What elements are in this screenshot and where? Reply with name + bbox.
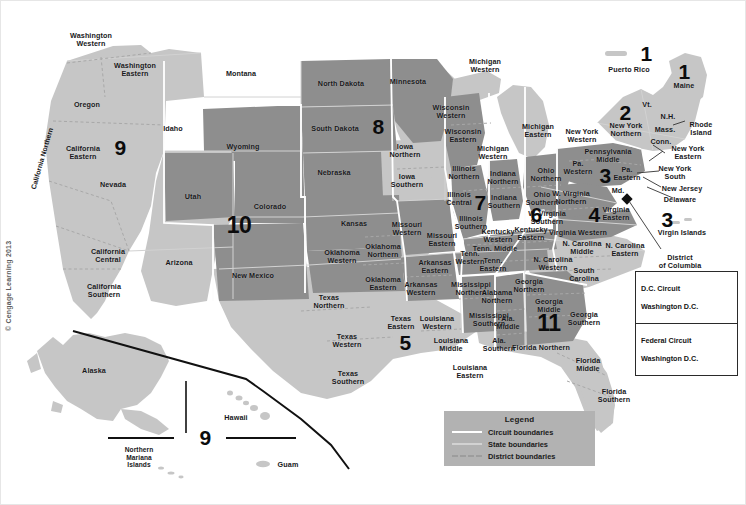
legend: Legend Circuit boundaries State boundari… [444,411,595,466]
dc-circuit-box: D.C. Circuit Washington D.C. [636,272,737,323]
legend-label-circuit: Circuit boundaries [488,428,553,437]
federal-circuit-box: Federal Circuit Washington D.C. [636,323,737,375]
guam-scale-bar [226,437,296,439]
circuit-boundary-swatch [452,431,482,433]
legend-label-state: State boundaries [488,440,548,449]
special-circuits-box: D.C. Circuit Washington D.C. Federal Cir… [635,271,738,376]
legend-label-district: District boundaries [488,452,555,461]
federal-circuit-name: Federal Circuit [641,336,733,345]
dc-circuit-name: D.C. Circuit [641,284,733,293]
mariana-scale-bar [108,437,174,439]
district-boundary-swatch [452,455,482,457]
legend-title: Legend [452,415,587,424]
legend-row-circuit: Circuit boundaries [452,427,587,437]
legend-row-state: State boundaries [452,439,587,449]
federal-circuit-location: Washington D.C. [641,354,733,363]
dc-circuit-location: Washington D.C. [641,302,733,311]
circuit-map: .lightfill{fill:#c6c6c6;} .darkfill{fill… [0,0,746,505]
copyright-notice: © Cengage Learning 2013 [5,241,12,331]
legend-row-district: District boundaries [452,451,587,461]
map-graphic: .lightfill{fill:#c6c6c6;} .darkfill{fill… [1,1,746,505]
state-boundary-swatch [452,443,482,445]
